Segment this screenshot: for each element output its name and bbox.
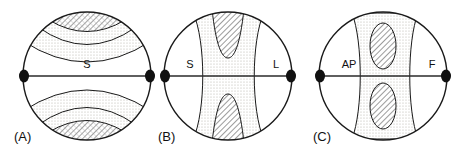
density-maximum-lower-c [370,83,396,129]
pole-point-right-b [286,70,296,83]
pole-point-right-a [145,70,155,83]
pole-point-left-a [19,70,29,83]
pole-point-right-c [441,70,451,83]
axis-label-left-c: AP [342,58,357,70]
pole-point-left-b [160,70,170,83]
stereonet-figure: S (A) S L (B) [0,0,459,152]
axis-label-left-b: S [186,58,193,70]
axis-label-right-c: F [429,58,436,70]
density-maximum-upper-c [370,23,396,69]
panel-label-c: (C) [313,129,331,144]
axis-label-right-b: L [273,58,279,70]
axis-label-center-a: S [83,58,90,70]
panel-label-b: (B) [158,129,175,144]
panel-label-a: (A) [14,129,31,144]
stereonet-svg: S (A) S L (B) [0,0,459,152]
pole-point-left-c [315,70,325,83]
